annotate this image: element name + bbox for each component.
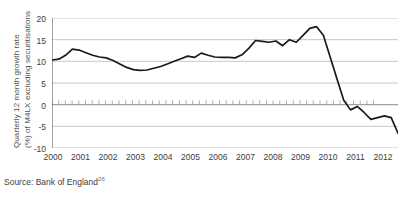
data-series-line	[52, 27, 398, 134]
chart-svg	[52, 18, 398, 148]
source-text: Source: Bank of England	[4, 177, 98, 187]
y-tick-label: 15	[24, 37, 46, 46]
x-axis-ticks: 2000 2001 2002 2003 2004 2005 2006 2007 …	[40, 152, 408, 166]
y-tick-label: -5	[24, 123, 46, 132]
source-note: Source: Bank of England26	[4, 176, 105, 187]
x-tick-label: 2004	[150, 152, 176, 162]
y-tick-label: 20	[24, 15, 46, 24]
x-tick-label: 2012	[370, 152, 396, 162]
y-axis-title-line1: Quarterly 12 month growth rate	[11, 34, 22, 148]
y-tick-label: 5	[24, 80, 46, 89]
x-tick-label: 2007	[233, 152, 259, 162]
x-tick-label: 2002	[95, 152, 121, 162]
x-tick-label: 2009	[288, 152, 314, 162]
y-tick-label: 10	[24, 58, 46, 67]
x-tick-label: 2001	[68, 152, 94, 162]
chart-figure: Quarterly 12 month growth rate (%) of M4…	[0, 0, 408, 198]
plot-area	[52, 18, 398, 148]
x-tick-label: 2008	[260, 152, 286, 162]
y-tick-label: 0	[24, 102, 46, 111]
x-tick-label: 2006	[205, 152, 231, 162]
gridlines	[52, 18, 398, 148]
source-footnote-marker: 26	[98, 176, 105, 182]
x-tick-label: 2000	[40, 152, 66, 162]
x-tick-label: 2003	[123, 152, 149, 162]
x-axis-quarter-ticks	[52, 100, 374, 104]
x-tick-label: 2005	[178, 152, 204, 162]
x-tick-label: 2011	[343, 152, 369, 162]
y-axis-ticks: 20 15 10 5 0 -5 -10	[22, 0, 46, 165]
x-tick-label: 2010	[315, 152, 341, 162]
